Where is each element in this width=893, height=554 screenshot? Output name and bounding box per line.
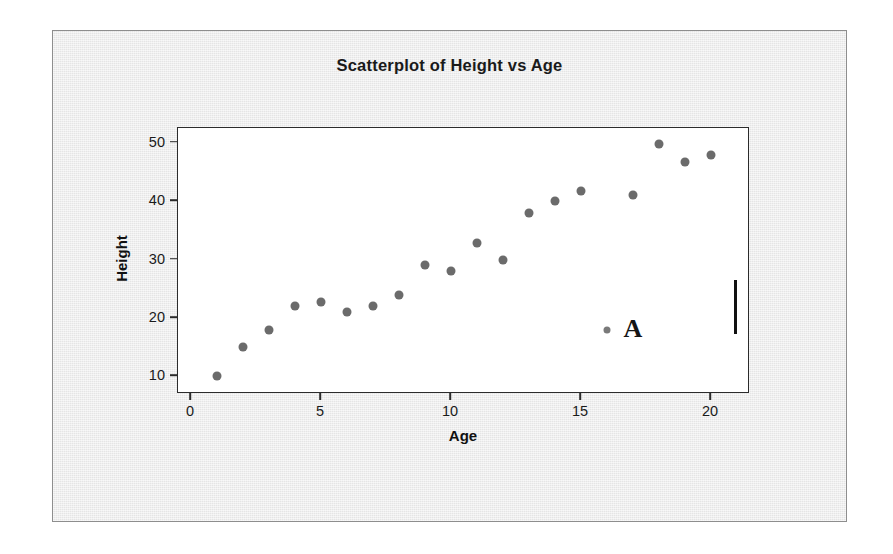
y-axis-label: Height xyxy=(113,199,130,319)
text-cursor-artifact xyxy=(734,280,737,334)
data-point xyxy=(239,343,248,352)
y-axis-tick xyxy=(170,141,177,143)
data-point xyxy=(707,151,716,160)
data-point xyxy=(369,302,378,311)
data-point xyxy=(291,302,300,311)
data-point xyxy=(525,208,534,217)
y-axis-tick xyxy=(170,199,177,201)
data-point xyxy=(577,187,586,196)
y-axis-tick xyxy=(170,316,177,318)
x-axis-tick xyxy=(189,393,191,400)
x-axis-tick-label: 20 xyxy=(702,403,718,419)
data-point xyxy=(473,239,482,248)
data-point xyxy=(343,308,352,317)
data-point xyxy=(421,261,430,270)
plot-frame: A xyxy=(177,127,749,393)
x-axis-tick xyxy=(709,393,711,400)
data-point xyxy=(265,325,274,334)
data-point xyxy=(213,372,222,381)
x-axis-label: Age xyxy=(177,427,749,444)
data-point xyxy=(499,255,508,264)
y-axis-tick xyxy=(170,258,177,260)
x-axis-tick-label: 0 xyxy=(186,403,194,419)
data-point-outlier xyxy=(604,326,611,333)
chart-panel: Scatterplot of Height vs Age A 051015201… xyxy=(52,30,847,522)
data-point xyxy=(317,297,326,306)
data-point xyxy=(551,197,560,206)
data-point xyxy=(395,290,404,299)
y-axis-tick-label: 50 xyxy=(121,134,165,150)
plot-area: A xyxy=(178,128,748,392)
x-axis-tick xyxy=(449,393,451,400)
x-axis-tick-label: 5 xyxy=(316,403,324,419)
x-axis-tick-label: 10 xyxy=(442,403,458,419)
data-point xyxy=(655,140,664,149)
y-axis-tick-label: 10 xyxy=(121,367,165,383)
data-point xyxy=(681,157,690,166)
x-axis-tick xyxy=(319,393,321,400)
data-point xyxy=(629,191,638,200)
point-annotation-label: A xyxy=(624,316,643,342)
chart-title: Scatterplot of Height vs Age xyxy=(53,56,846,75)
data-point xyxy=(447,267,456,276)
y-axis-tick xyxy=(170,375,177,377)
x-axis-tick xyxy=(579,393,581,400)
x-axis-tick-label: 15 xyxy=(572,403,588,419)
